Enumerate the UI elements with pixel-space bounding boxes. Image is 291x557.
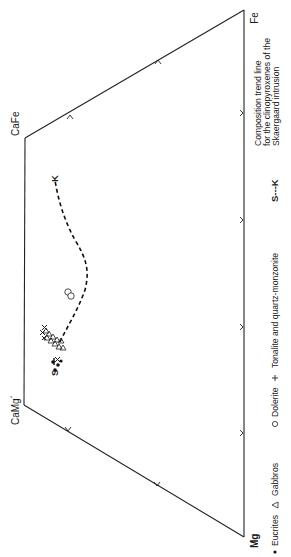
legend-tonalite-label: Tonalite and quartz-monzonite	[270, 253, 280, 368]
tick-mark	[67, 115, 73, 119]
tonalite-point	[40, 330, 45, 335]
edge-fe-cafe	[25, 10, 244, 138]
legend-dolerite-label: Dolerite	[270, 387, 280, 417]
dolerite-point	[68, 293, 74, 299]
edge-cafe-camg	[24, 138, 25, 405]
vertex-label-fe: Fe	[249, 12, 260, 24]
legend-tonalite-symbol	[272, 375, 278, 381]
eucrite-point	[51, 360, 55, 364]
tonalite-points	[40, 325, 60, 362]
tonalite-point	[42, 325, 47, 330]
vertex-label-cafe: CaFe	[10, 111, 21, 136]
tick-mark	[240, 324, 243, 330]
tick-marks	[65, 60, 243, 486]
legend-dolerite-symbol	[272, 421, 277, 426]
tick-mark	[240, 430, 243, 436]
edge-camg-mg	[24, 405, 244, 537]
legend-eucrites-label: Eucrites	[270, 515, 280, 546]
legend: Eucrites Gabbros Dolerite Tonalite and q…	[253, 38, 281, 554]
trend-line-path	[55, 180, 87, 342]
data-points	[40, 289, 74, 372]
eucrite-point	[53, 368, 57, 372]
vertex-label-mg: Mg	[249, 534, 260, 548]
legend-gabbros-symbol	[272, 502, 278, 508]
vertex-label-camg: CaMg´	[10, 395, 21, 425]
eucrite-point	[56, 363, 60, 367]
tick-mark	[240, 110, 243, 116]
tick-mark	[240, 217, 243, 223]
legend-eucrites-symbol	[273, 550, 276, 553]
eucrite-point	[59, 359, 62, 362]
gabbros-points	[43, 328, 66, 350]
trend-description: Composition trend line for the clinopyro…	[253, 38, 281, 146]
legend-gabbros-label: Gabbros	[270, 463, 280, 496]
trend-description-line-3: Skaergaard intrusion	[271, 66, 281, 146]
tonalite-point	[55, 357, 60, 362]
pyroxene-quadrilateral-diagram: Fe CaFe CaMg´ Mg S K	[0, 0, 291, 557]
legend-trend-key: S---K	[269, 179, 280, 202]
trend-end-label: K	[49, 175, 60, 182]
quadrilateral-outline	[24, 10, 244, 537]
